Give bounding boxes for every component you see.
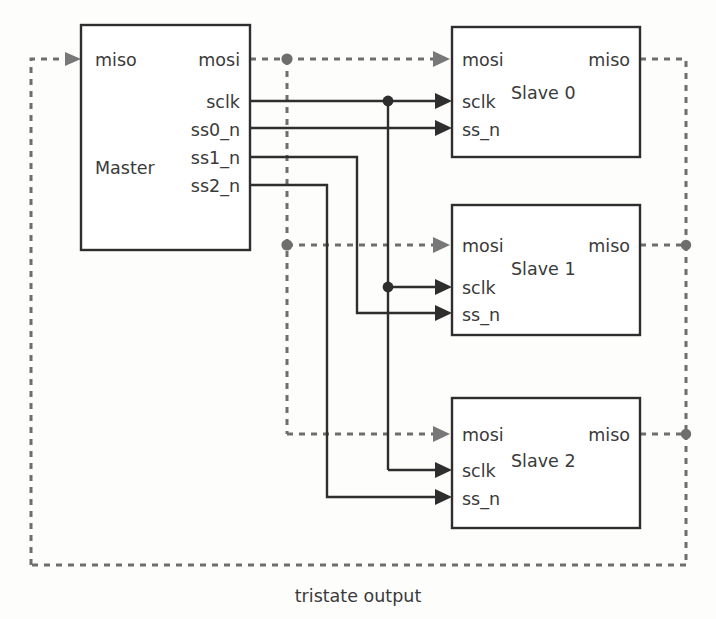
- junction-miso-slave1: [681, 240, 691, 250]
- junction-miso-slave2: [681, 429, 691, 439]
- arrowhead-slave1-mosi: [433, 237, 450, 253]
- master-pin-miso: miso: [95, 50, 137, 70]
- block-slave0[interactable]: mosi miso Slave 0 sclk ss_n: [452, 27, 640, 157]
- slave1-block-label: Slave 1: [511, 259, 576, 279]
- wire-ss2n: [250, 185, 441, 497]
- wire-ss1n: [250, 157, 441, 313]
- net-ss2-n: [250, 185, 452, 505]
- block-master[interactable]: miso mosi sclk ss0_n ss1_n ss2_n Master: [81, 25, 250, 250]
- master-pin-ss1-n: ss1_n: [191, 148, 240, 169]
- arrowhead-slave0-mosi: [433, 51, 450, 67]
- arrowhead-slave2-mosi: [433, 426, 450, 442]
- master-pin-mosi: mosi: [198, 50, 240, 70]
- slave0-pin-ss-n: ss_n: [462, 120, 500, 141]
- master-pin-ss2-n: ss2_n: [191, 176, 240, 197]
- slave0-block-label: Slave 0: [511, 83, 576, 103]
- junction-sclk-slave1: [383, 282, 394, 293]
- master-pin-ss0-n: ss0_n: [191, 120, 240, 141]
- arrowhead-slave1-sclk: [435, 279, 452, 295]
- net-ss0-n: [250, 120, 452, 136]
- arrowhead-slave0-ssn: [435, 120, 452, 136]
- block-slave1[interactable]: mosi miso Slave 1 sclk ss_n: [452, 205, 640, 335]
- net-mosi: [250, 51, 450, 442]
- slave0-pin-mosi: mosi: [462, 50, 504, 70]
- diagram-canvas: miso mosi sclk ss0_n ss1_n ss2_n Master …: [0, 0, 716, 619]
- spi-bus-diagram: miso mosi sclk ss0_n ss1_n ss2_n Master …: [0, 0, 716, 619]
- arrowhead-slave2-ssn: [435, 489, 452, 505]
- junction-mosi-slave1: [281, 239, 292, 250]
- arrowhead-master-miso: [65, 52, 81, 66]
- wire-miso-left-column: [31, 59, 68, 565]
- master-pin-sclk: sclk: [206, 92, 241, 112]
- block-slave2[interactable]: mosi miso Slave 2 sclk ss_n: [452, 398, 640, 528]
- slave2-pin-sclk: sclk: [462, 461, 497, 481]
- arrowhead-slave1-ssn: [435, 305, 452, 321]
- slave0-pin-sclk: sclk: [462, 92, 497, 112]
- slave2-pin-mosi: mosi: [462, 425, 504, 445]
- arrowhead-slave0-sclk: [435, 93, 452, 109]
- slave1-pin-ss-n: ss_n: [462, 305, 500, 326]
- master-block-label: Master: [95, 158, 156, 178]
- slave0-pin-miso: miso: [588, 50, 630, 70]
- diagram-caption: tristate output: [295, 586, 422, 606]
- slave2-pin-ss-n: ss_n: [462, 489, 500, 510]
- slave1-pin-sclk: sclk: [462, 278, 497, 298]
- net-ss1-n: [250, 157, 452, 321]
- slave1-pin-miso: miso: [588, 236, 630, 256]
- junction-mosi-top: [281, 53, 292, 64]
- slave2-block-label: Slave 2: [511, 451, 576, 471]
- junction-sclk-slave0: [383, 96, 394, 107]
- arrowhead-slave2-sclk: [435, 462, 452, 478]
- net-sclk: [250, 93, 452, 478]
- slave1-pin-mosi: mosi: [462, 236, 504, 256]
- slave2-pin-miso: miso: [588, 425, 630, 445]
- wire-slave0-miso-stub: [640, 59, 686, 245]
